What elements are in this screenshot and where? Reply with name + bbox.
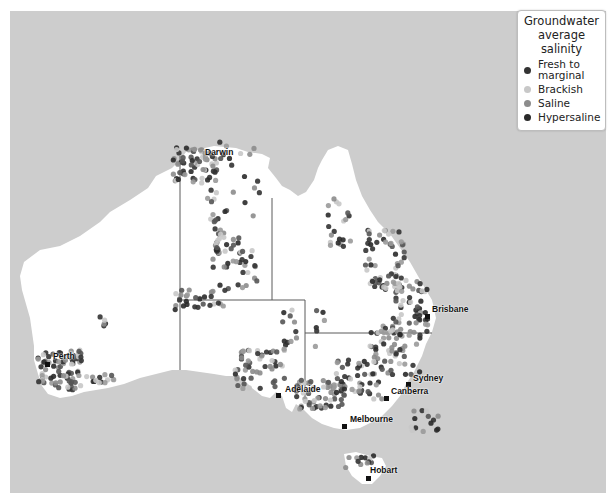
city-marker-icon (425, 314, 430, 319)
legend-label: Saline (538, 98, 570, 109)
hypersaline-dot-icon (524, 114, 531, 121)
legend-label: Brackish (538, 84, 583, 95)
city-marker-icon (276, 393, 281, 398)
city-marker-icon (366, 476, 371, 481)
legend-item-fresh[interactable]: Fresh to marginal (524, 59, 601, 81)
city-label-hobart: Hobart (370, 465, 397, 475)
legend-item-brackish[interactable]: Brackish (524, 84, 601, 95)
legend-title-line1: Groundwater (522, 14, 601, 28)
legend-item-saline[interactable]: Saline (524, 98, 601, 109)
city-marker-icon (342, 424, 347, 429)
saline-dot-icon (524, 100, 531, 107)
legend-title-line2: average salinity (522, 28, 601, 56)
legend-label: Hypersaline (538, 112, 600, 123)
city-label-canberra: Canberra (391, 386, 428, 396)
city-label-brisbane: Brisbane (432, 304, 468, 314)
legend: Groundwater average salinity Fresh to ma… (517, 10, 606, 131)
city-marker-icon (45, 362, 50, 367)
city-label-adelaide: Adelaide (285, 384, 320, 394)
legend-title: Groundwater average salinity (522, 14, 601, 56)
fresh-dot-icon (524, 67, 531, 74)
city-label-melbourne: Melbourne (350, 414, 393, 424)
legend-label: Fresh to marginal (538, 59, 584, 81)
city-label-sydney: Sydney (413, 373, 443, 383)
brackish-dot-icon (524, 86, 531, 93)
legend-item-hypersaline[interactable]: Hypersaline (524, 112, 601, 123)
city-label-perth: Perth (53, 351, 75, 361)
city-label-darwin: Darwin (205, 147, 233, 157)
city-marker-icon (384, 396, 389, 401)
